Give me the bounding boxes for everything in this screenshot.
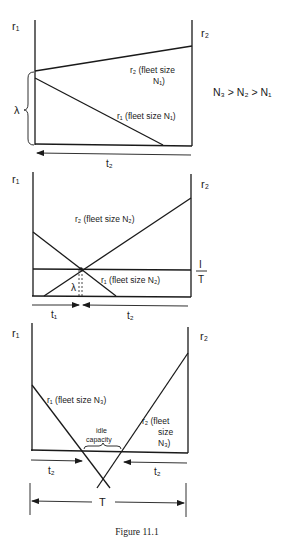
panel1-axis-left-label: r₁ [12, 20, 20, 32]
panel3-r2-label-n3: N₃) [158, 438, 171, 448]
panel2-r1-label: r₁ (fleet size N₂) [101, 275, 160, 285]
panel1-r1-label: r₁ (fleet size N₁) [117, 111, 176, 121]
panel3-t2-left-label: t₂ [48, 465, 55, 476]
panel2-t2-label: t₂ [127, 310, 134, 321]
panel3-total-label: T [99, 496, 106, 508]
panel3-axis-right-label: r₂ [200, 330, 208, 342]
panel3-idle-label: idle [96, 427, 107, 434]
panel3-capacity-label: capacity [86, 436, 112, 444]
panel-2: λ r₁ r₂ r₂ (fleet size N₂) r₁ (fleet siz… [12, 172, 209, 321]
panel1-r2-label-cont: N₁) [153, 76, 165, 86]
panel2-baseline [32, 296, 191, 297]
panel3-axis-left-label: r₁ [12, 327, 20, 339]
panel3-T-right-arrow [115, 502, 184, 503]
panel1-t2-label: t₂ [106, 158, 113, 169]
panel3-idle-capacity-brace [84, 443, 121, 449]
panel1-r2-label: r₂ (fleet size [130, 65, 175, 75]
panel1-lambda-brace [24, 72, 34, 145]
figure-caption: Figure 11.1 [115, 527, 159, 537]
panel1-axis-right-label: r₂ [201, 27, 209, 39]
panel3-t2-right-label: t₂ [154, 466, 161, 477]
panel2-lambda-label: λ [71, 282, 76, 293]
panel3-T-left-arrow [32, 501, 92, 502]
panel2-fraction-numerator: I [199, 259, 202, 270]
panel-3: idle capacity r₁ r₂ r₁ (fleet size N₃) r… [12, 323, 208, 517]
panel2-axis-left-label: r₁ [12, 173, 20, 185]
panel3-r2-label: r₂ (fleet [142, 416, 170, 426]
panel2-r2-label: r₂ (fleet size N₂) [75, 214, 135, 224]
panel2-t2-arrow [83, 305, 188, 306]
panel-1: λ r₁ r₂ r₂ (fleet size N₁) r₁ (fleet siz… [12, 20, 272, 169]
panel1-lambda-label: λ [14, 104, 20, 116]
panel2-axis-right-label: r₂ [201, 178, 209, 190]
panel3-baseline [31, 450, 188, 453]
panel3-r2-label-size: size [158, 427, 173, 437]
panel1-t2-arrow [37, 153, 191, 155]
relation-label: N₃ > N₂ > N₁ [213, 86, 272, 98]
panel1-baseline [35, 144, 192, 146]
panel2-capacity-line [33, 269, 191, 270]
panel3-t2-left-arrow [31, 460, 82, 461]
panel2-t1-label: t₁ [51, 309, 58, 320]
panel3-r1-label: r₁ (fleet size N₃) [47, 395, 106, 405]
figure-11-1: λ r₁ r₂ r₂ (fleet size N₁) r₁ (fleet siz… [0, 0, 282, 549]
panel3-t2-right-arrow [124, 462, 187, 463]
panel2-fraction-denominator: T [198, 274, 204, 285]
